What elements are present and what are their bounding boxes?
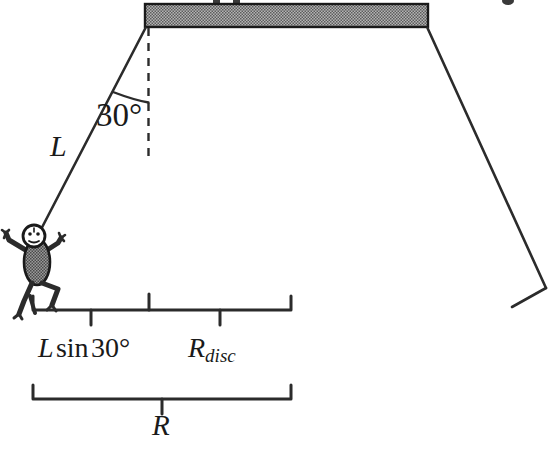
rope-length-label: L <box>50 131 67 161</box>
overhead-bar <box>145 4 428 27</box>
horizontal-offset-variable: L <box>38 332 54 363</box>
horizontal-offset-function: sin <box>56 332 89 363</box>
disc-radius-symbol: R <box>188 332 205 363</box>
horizontal-offset-label: L sin 30° <box>38 334 130 362</box>
rope-right-kink <box>512 288 546 307</box>
total-radius-label: R <box>152 411 170 440</box>
horizontal-offset-angle: 30° <box>91 332 130 363</box>
disc-radius-label: Rdisc <box>188 334 236 362</box>
angle-label: 30° <box>96 99 142 132</box>
brace-upper <box>33 294 291 325</box>
disc-radius-subscript: disc <box>205 345 236 366</box>
rope-right-line <box>428 28 547 288</box>
diagram-canvas <box>0 0 548 451</box>
physics-diagram-figure: 30° L L sin 30° Rdisc R <box>0 0 548 451</box>
